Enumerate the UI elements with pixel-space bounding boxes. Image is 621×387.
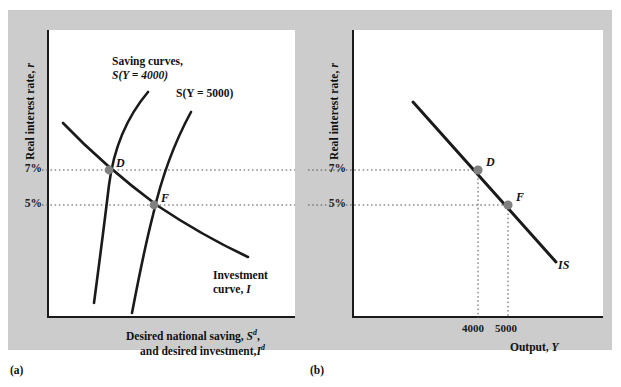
point-d-label-a: D — [116, 156, 125, 171]
x-tick-4000: 4000 — [462, 322, 484, 334]
figure-background-band: Real interest rate, r 7% 5% D F Saving c… — [8, 10, 612, 350]
x-axis-caption-a-line1-tail: , — [257, 330, 260, 342]
saving-curves-label-line2: S(Y = 4000) — [112, 69, 168, 81]
panel-caption-b: (b) — [310, 364, 324, 376]
point-f-marker-a — [150, 201, 159, 210]
x-axis-caption-b-text: Output, — [510, 341, 552, 353]
saving-curves-label: Saving curves, S(Y = 4000) — [112, 54, 183, 82]
point-d-label-b: D — [486, 155, 495, 170]
investment-curve-label: Investment curve, I — [213, 268, 268, 296]
x-axis-caption-a-line2: and desired investment, — [126, 344, 256, 358]
curves-svg-b — [308, 10, 612, 350]
saving-curve-5000 — [132, 112, 191, 313]
point-f-label-b: F — [516, 190, 524, 205]
x-axis-caption-a: Desired national saving, Sd, and desired… — [126, 328, 265, 358]
is-curve — [413, 102, 556, 262]
point-d-marker-b — [473, 165, 482, 174]
investment-curve-label-line1: Investment — [213, 269, 268, 281]
panel-b: Real interest rate, r 7% 5% D F IS 4000 … — [308, 10, 612, 350]
x-tick-5000: 5000 — [495, 322, 517, 334]
point-d-marker-a — [105, 166, 114, 175]
saving-curve-5000-label: S(Y = 5000) — [176, 86, 233, 100]
x-axis-caption-a-line2-sup: d — [261, 343, 265, 352]
x-axis-caption-a-line1: Desired national saving, — [126, 330, 247, 342]
investment-curve — [63, 123, 248, 257]
investment-curve-label-var: I — [246, 283, 250, 295]
x-axis-caption-b: Output, Y — [510, 340, 559, 354]
point-f-marker-b — [503, 200, 512, 209]
x-axis-caption-b-var: Y — [552, 341, 559, 353]
panel-caption-a: (a) — [10, 364, 23, 376]
investment-curve-label-line2: curve, — [213, 283, 246, 295]
is-curve-label: IS — [558, 258, 569, 273]
saving-curves-label-line1: Saving curves, — [112, 55, 183, 67]
panel-a: Real interest rate, r 7% 5% D F Saving c… — [8, 10, 308, 350]
point-f-label-a: F — [161, 191, 169, 206]
